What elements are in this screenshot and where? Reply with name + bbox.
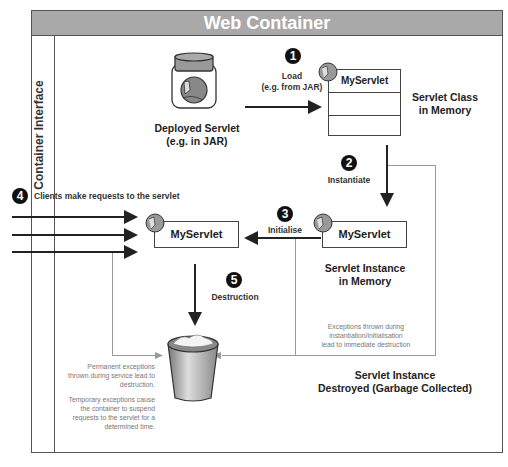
note-line: destruction. bbox=[58, 380, 155, 389]
request-arrow-2 bbox=[12, 234, 128, 236]
note-line: thrown during service lead to bbox=[58, 371, 155, 380]
active-servlet-box: MyServlet bbox=[154, 221, 239, 248]
trash-bin-icon bbox=[165, 332, 221, 404]
note-line: Temporary exceptions cause bbox=[58, 395, 155, 404]
step-3-badge: 3 bbox=[277, 206, 293, 222]
instantiation-exceptions-note: Exceptions thrown during instantiation/i… bbox=[298, 322, 434, 349]
globe-icon bbox=[313, 213, 333, 233]
instantiate-arrow-line bbox=[386, 145, 388, 197]
load-arrowhead-icon bbox=[308, 100, 322, 114]
globe-icon bbox=[318, 62, 338, 82]
request-arrow-3 bbox=[12, 251, 128, 253]
servlet-class-field-row bbox=[329, 93, 400, 116]
servlet-class-box: MyServlet bbox=[328, 69, 401, 136]
note-line: determined time. bbox=[58, 422, 155, 431]
instantiate-exception-line-v bbox=[435, 165, 436, 355]
servlet-class-title: MyServlet bbox=[329, 70, 400, 93]
servlet-class-caption: Servlet Class in Memory bbox=[405, 91, 485, 117]
container-interface-divider bbox=[54, 36, 55, 453]
servlet-instance-title: MyServlet bbox=[323, 222, 406, 247]
servlet-class-caption-line1: Servlet Class bbox=[405, 91, 485, 104]
note-line: Exceptions thrown during bbox=[298, 322, 434, 331]
destroyed-caption: Servlet Instance Destroyed (Garbage Coll… bbox=[285, 369, 505, 395]
note-line: lead to immediate destruction bbox=[298, 340, 434, 349]
service-exception-line-v bbox=[112, 253, 113, 355]
active-servlet-title: MyServlet bbox=[155, 222, 238, 247]
destroyed-caption-line2: Destroyed (Garbage Collected) bbox=[285, 382, 505, 395]
note-line: requests to the servlet for a bbox=[58, 413, 155, 422]
note-line: the container to suspend bbox=[58, 404, 155, 413]
deployed-servlet-line1: Deployed Servlet bbox=[152, 122, 242, 135]
servlet-class-caption-line2: in Memory bbox=[405, 104, 485, 117]
request-arrowhead-icon bbox=[124, 245, 138, 259]
request-arrow-1 bbox=[12, 216, 128, 218]
step-4-label: Clients make requests to the servlet bbox=[34, 191, 234, 202]
deployed-servlet-label: Deployed Servlet (e.g. in JAR) bbox=[152, 122, 242, 148]
service-exception-line-h bbox=[112, 355, 157, 356]
globe-icon bbox=[145, 213, 165, 233]
step-4-badge: 4 bbox=[12, 188, 28, 204]
service-exception-arrowhead-icon bbox=[155, 352, 163, 359]
step-5-badge: 5 bbox=[226, 272, 242, 288]
step-2-badge: 2 bbox=[341, 155, 357, 171]
deployed-servlet-line2: (e.g. in JAR) bbox=[152, 135, 242, 148]
step-1-line2: (e.g. from JAR) bbox=[252, 82, 332, 93]
destruction-arrowhead-icon bbox=[188, 312, 202, 326]
initialise-arrow-line bbox=[255, 237, 321, 239]
destruction-arrow-line bbox=[194, 264, 196, 316]
exception-bottom-line bbox=[295, 355, 436, 356]
step-2-label: Instantiate bbox=[318, 175, 380, 186]
servlet-instance-caption-line2: in Memory bbox=[320, 275, 410, 288]
to-destroyed-line bbox=[222, 355, 295, 356]
note-line: Permanent exceptions bbox=[58, 362, 155, 371]
initialise-exception-line bbox=[295, 239, 296, 355]
request-arrowhead-icon bbox=[124, 228, 138, 242]
servlet-instance-caption: Servlet Instance in Memory bbox=[320, 262, 410, 288]
request-arrowhead-icon bbox=[124, 210, 138, 224]
step-3-label: Initialise bbox=[257, 225, 313, 236]
instantiate-arrowhead-icon bbox=[380, 193, 394, 207]
step-5-label: Destruction bbox=[205, 292, 265, 303]
destroyed-caption-line1: Servlet Instance bbox=[285, 369, 505, 382]
servlet-instance-caption-line1: Servlet Instance bbox=[320, 262, 410, 275]
jar-icon bbox=[170, 52, 218, 110]
note-line: instantiation/initialisation bbox=[298, 331, 434, 340]
web-container-header: Web Container bbox=[31, 10, 503, 36]
load-arrow-line bbox=[245, 106, 313, 108]
service-exceptions-note: Permanent exceptions thrown during servi… bbox=[58, 362, 155, 431]
servlet-instance-box: MyServlet bbox=[322, 221, 407, 248]
step-1-badge: 1 bbox=[285, 48, 301, 64]
initialise-arrowhead-icon bbox=[244, 231, 258, 245]
instantiate-exception-line-h bbox=[388, 165, 435, 166]
